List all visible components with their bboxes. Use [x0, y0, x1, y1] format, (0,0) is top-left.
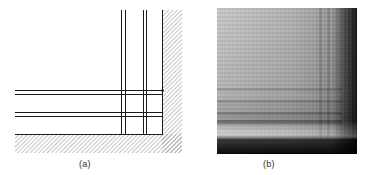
panel-b: (b) — [183, 0, 366, 175]
grid-photograph — [217, 8, 357, 154]
panel-a: (a) — [0, 0, 183, 175]
corner-dot — [161, 89, 164, 92]
vertical-lines — [122, 10, 147, 134]
corner-grid-diagram — [0, 0, 183, 175]
horizontal-lines — [15, 91, 162, 117]
hatched-wall — [15, 10, 182, 153]
wall-edge — [15, 10, 163, 135]
panel-a-label: (a) — [79, 159, 91, 169]
panel-b-label: (b) — [263, 159, 275, 169]
